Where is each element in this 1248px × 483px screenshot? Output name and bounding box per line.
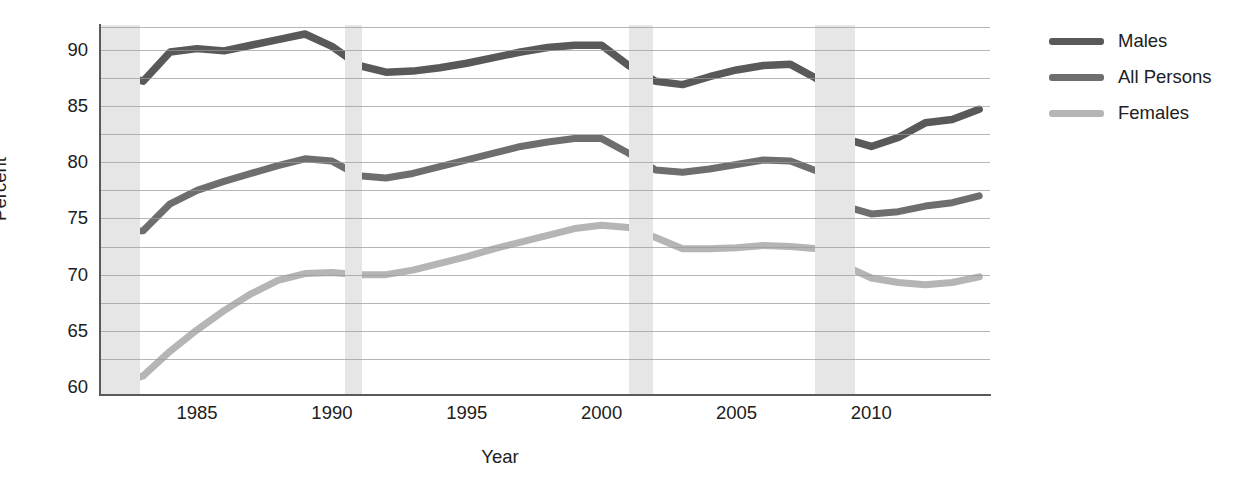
- chart-legend: MalesAll PersonsFemales: [1049, 23, 1239, 131]
- gridline: [100, 303, 990, 304]
- recession-band: [100, 25, 140, 395]
- gridline: [100, 106, 990, 107]
- x-tick-label: 2000: [562, 404, 642, 422]
- legend-swatch-icon: [1049, 110, 1104, 117]
- series-layer: [100, 25, 990, 395]
- legend-item-females: Females: [1049, 95, 1239, 131]
- legend-label: Males: [1118, 31, 1167, 51]
- legend-item-males: Males: [1049, 23, 1239, 59]
- recession-band: [345, 25, 361, 395]
- x-tick-label: 2010: [831, 404, 911, 422]
- gridline: [100, 275, 990, 276]
- gridline: [100, 134, 990, 135]
- plot-area: [100, 25, 990, 395]
- x-axis-title: Year: [0, 446, 1000, 468]
- gridline: [100, 190, 990, 191]
- y-tick-label: 75: [42, 209, 88, 227]
- chart-figure: 60657075808590 198519901995200020052010 …: [0, 0, 1248, 483]
- recession-band: [629, 25, 653, 395]
- y-tick-label: 80: [42, 153, 88, 171]
- legend-label: Females: [1118, 103, 1189, 123]
- gridline: [100, 50, 990, 51]
- gridline: [100, 359, 990, 360]
- recession-band: [815, 25, 855, 395]
- gridline: [100, 162, 990, 163]
- x-tick-label: 1990: [292, 404, 372, 422]
- y-tick-label: 65: [42, 322, 88, 340]
- gridline: [100, 247, 990, 248]
- y-tick-label: 60: [42, 378, 88, 396]
- x-tick-label: 1995: [427, 404, 507, 422]
- y-tick-label: 90: [42, 41, 88, 59]
- x-tick-label: 2005: [696, 404, 776, 422]
- y-axis-title: Percent: [0, 157, 11, 221]
- y-axis-line: [99, 24, 101, 396]
- gridline: [100, 218, 990, 219]
- x-axis-line: [99, 394, 991, 396]
- x-tick-label: 1985: [157, 404, 237, 422]
- gridline: [100, 27, 990, 28]
- y-tick-label: 85: [42, 97, 88, 115]
- gridline: [100, 78, 990, 79]
- legend-item-all-persons: All Persons: [1049, 59, 1239, 95]
- legend-label: All Persons: [1118, 67, 1212, 87]
- gridline: [100, 331, 990, 332]
- legend-swatch-icon: [1049, 38, 1104, 45]
- legend-swatch-icon: [1049, 74, 1104, 81]
- y-tick-label: 70: [42, 266, 88, 284]
